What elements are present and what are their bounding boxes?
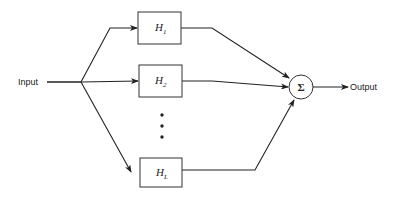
ellipsis-dots — [160, 113, 163, 138]
h1-to-sum — [181, 28, 289, 78]
block-hL: HL — [140, 158, 182, 187]
block-diagram: Input H1 H2 HL Σ Output — [0, 0, 397, 200]
sigma-symbol: Σ — [297, 81, 304, 93]
summing-junction: Σ — [289, 75, 313, 99]
block-h1: H1 — [138, 12, 181, 44]
block-h2: H2 — [139, 65, 182, 97]
output-label: Output — [350, 82, 378, 92]
branch-to-h1 — [81, 28, 137, 82]
input-label: Input — [18, 77, 39, 87]
branch-to-h2 — [81, 81, 138, 82]
h2-to-sum — [182, 81, 288, 87]
branch-to-hL — [81, 82, 131, 172]
hL-to-sum — [182, 100, 294, 170]
